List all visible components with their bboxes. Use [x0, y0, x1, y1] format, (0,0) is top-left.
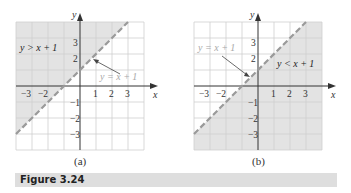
svg-text:−3: −3 [21, 89, 31, 99]
x-axis-label: x [330, 89, 336, 100]
svg-text:−3: −3 [70, 130, 80, 140]
svg-text:−1: −1 [70, 98, 80, 108]
figure-caption-bar: Figure 3.24 [15, 173, 337, 187]
svg-text:−3: −3 [248, 130, 258, 140]
svg-text:3: 3 [73, 38, 78, 48]
svg-text:−2: −2 [38, 89, 48, 99]
svg-text:3: 3 [303, 89, 308, 99]
boundary-label: y = x + 1 [197, 42, 235, 53]
y-axis-arrow-icon [255, 13, 261, 21]
panel-a-label: (a) [74, 155, 86, 167]
boundary-label: y = x + 1 [99, 71, 137, 82]
svg-text:2: 2 [109, 89, 114, 99]
svg-text:1: 1 [93, 89, 98, 99]
y-axis-arrow-icon [77, 13, 83, 21]
figure-caption: Figure 3.24 [20, 173, 84, 187]
svg-text:−2: −2 [216, 89, 226, 99]
svg-text:1: 1 [271, 89, 276, 99]
svg-text:2: 2 [287, 89, 292, 99]
inequality-label: y < x + 1 [276, 58, 314, 69]
inequality-label: y > x + 1 [19, 42, 57, 53]
svg-text:−3: −3 [199, 89, 209, 99]
svg-text:2: 2 [251, 54, 256, 64]
panel-b-graph: y x y = x + 1 y < x + 1 −3−2 123 32 −1−2… [194, 9, 336, 150]
svg-text:−1: −1 [248, 98, 258, 108]
svg-text:3: 3 [125, 89, 130, 99]
panel-b-label: (b) [252, 155, 265, 167]
figure-panels: y x y > x + 1 y = x + 1 −3−2 123 32 −1−2… [0, 0, 351, 170]
svg-text:2: 2 [73, 54, 78, 64]
x-axis-label: x [152, 89, 158, 100]
y-axis-label: y [71, 9, 77, 20]
panel-a-graph: y x y > x + 1 y = x + 1 −3−2 123 32 −1−2… [16, 9, 158, 150]
y-axis-label: y [249, 9, 255, 20]
svg-text:−2: −2 [70, 114, 80, 124]
svg-text:−2: −2 [248, 114, 258, 124]
svg-text:3: 3 [251, 38, 256, 48]
